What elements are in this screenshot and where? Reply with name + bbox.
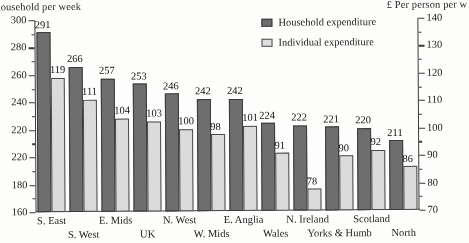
left-tick-label: 260: [11, 70, 27, 81]
category-label: Yorks & Humb: [308, 227, 372, 238]
bar-individual: [179, 129, 193, 211]
right-tick-label: 70: [428, 205, 439, 216]
category-label: E. Mids: [99, 215, 132, 226]
bar-value-label-individual: 98: [210, 122, 221, 133]
category-label: W. Mids: [194, 228, 230, 239]
right-tick-label: 80: [427, 177, 438, 188]
bar-value-label-household: 211: [387, 127, 402, 138]
left-tick-label: 240: [11, 98, 27, 109]
left-tick-label: 220: [11, 125, 27, 136]
category-label: N. West: [163, 214, 196, 225]
bar-value-label-individual: 119: [50, 65, 65, 76]
bar-household: [37, 32, 52, 212]
bar-individual: [51, 78, 65, 212]
bar-value-label-individual: 101: [242, 113, 258, 124]
right-tick-minor: [419, 196, 422, 197]
bar-household: [325, 127, 339, 211]
bar-individual: [83, 99, 97, 212]
left-axis-title: household per week: [0, 1, 81, 13]
right-tick-major: [419, 182, 425, 183]
bar-value-label-individual: 111: [82, 87, 97, 98]
bar-group: 257104: [101, 20, 130, 212]
right-tick-label: 110: [427, 95, 442, 106]
right-tick-major: [418, 18, 424, 19]
bar-household: [229, 98, 243, 211]
bar-value-label-individual: 100: [178, 116, 194, 127]
bar-group: 22491: [261, 19, 290, 211]
bar-household: [197, 99, 211, 212]
bar-group: 22092: [357, 18, 386, 210]
bar-value-label-household: 224: [259, 110, 275, 121]
bar-value-label-household: 291: [35, 20, 51, 31]
right-tick-label: 100: [427, 122, 443, 133]
right-tick-minor: [419, 86, 422, 87]
right-tick-label: 140: [426, 13, 442, 24]
bar-group: 22190: [325, 18, 354, 210]
bar-group: 246100: [165, 19, 194, 211]
bar-group: 22278: [293, 18, 322, 210]
bar-series-container: 2911192661112571042531032461002429824210…: [34, 18, 419, 212]
bar-group: 266111: [69, 20, 98, 212]
bar-group: 291119: [37, 20, 66, 212]
bar-individual: [147, 121, 161, 212]
bar-value-label-household: 220: [355, 115, 371, 126]
bar-value-label-individual: 103: [146, 108, 162, 119]
bar-value-label-household: 222: [291, 113, 307, 124]
category-label: Wales: [263, 228, 288, 239]
right-tick-minor: [419, 169, 422, 170]
category-label: S. West: [68, 229, 100, 240]
bar-value-label-individual: 90: [338, 143, 349, 154]
category-label: N. Ireland: [286, 213, 329, 224]
bar-individual: [371, 150, 385, 210]
right-tick-major: [419, 73, 425, 74]
right-tick-minor: [419, 114, 422, 115]
bar-value-label-household: 257: [99, 66, 115, 77]
bar-value-label-household: 221: [323, 114, 339, 125]
category-label: S. East: [37, 215, 66, 226]
bar-household: [165, 93, 179, 211]
bar-group: 21186: [389, 18, 418, 210]
bar-individual: [275, 153, 289, 211]
bar-group: 242101: [229, 19, 258, 211]
bar-value-label-individual: 91: [274, 141, 285, 152]
bar-household: [357, 128, 371, 210]
bar-value-label-individual: 92: [370, 137, 381, 148]
right-tick-major: [419, 155, 425, 156]
right-tick-major: [419, 100, 425, 101]
right-tick-major: [419, 45, 425, 46]
bar-household: [133, 84, 147, 212]
bar-group: 253103: [133, 19, 162, 211]
left-tick-major: [30, 212, 36, 213]
left-tick-label: 300: [11, 15, 27, 26]
category-label: UK: [140, 228, 155, 239]
bar-household: [389, 140, 403, 210]
bar-value-label-household: 242: [227, 86, 243, 97]
bar-individual: [308, 188, 322, 210]
category-label: Scotland: [353, 213, 390, 224]
right-tick-label: 120: [427, 68, 443, 79]
bar-individual: [243, 126, 257, 211]
plot-area: 300280260240220220180160 140130120110100…: [34, 18, 419, 212]
bar-group: 24298: [197, 19, 226, 211]
bar-value-label-individual: 78: [307, 176, 318, 187]
bar-value-label-individual: 86: [402, 153, 413, 164]
bar-value-label-individual: 104: [114, 106, 130, 117]
right-tick-minor: [419, 141, 422, 142]
bar-household: [261, 123, 275, 211]
right-tick-major: [420, 210, 426, 211]
right-tick-minor: [418, 32, 421, 33]
bar-individual: [211, 134, 225, 211]
bar-individual: [339, 155, 353, 210]
right-tick-label: 90: [427, 150, 438, 161]
bar-individual: [404, 166, 418, 210]
bar-value-label-household: 242: [195, 86, 211, 97]
category-label: North: [391, 227, 416, 238]
bar-value-label-household: 253: [131, 71, 147, 82]
bar-value-label-household: 246: [163, 81, 179, 92]
bar-household: [101, 79, 115, 212]
left-tick-label: 220: [11, 152, 27, 163]
left-tick-label: 180: [12, 180, 28, 191]
bar-value-label-household: 266: [67, 54, 83, 65]
category-label: E. Anglia: [224, 214, 264, 225]
right-tick-label: 130: [427, 40, 443, 51]
